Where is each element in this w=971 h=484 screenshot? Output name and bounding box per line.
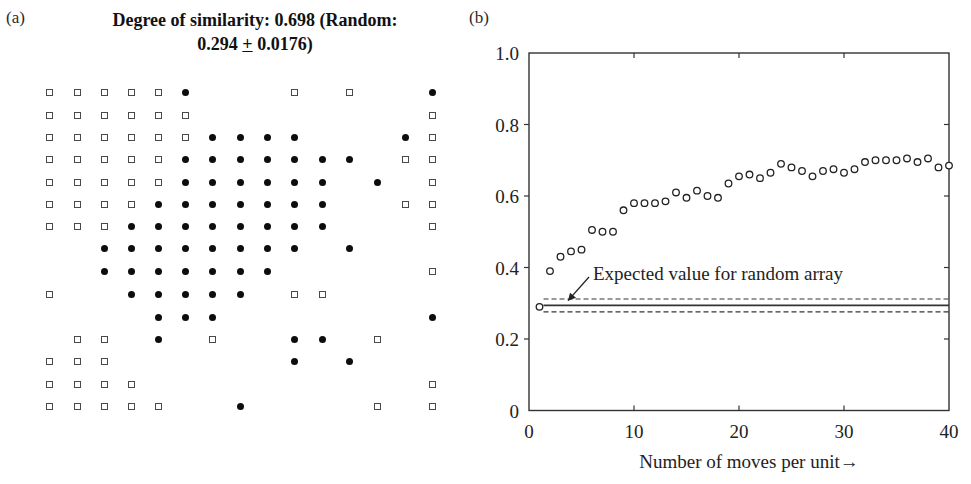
open-square-unit <box>101 201 108 208</box>
open-square-unit <box>429 268 436 275</box>
filled-dot-unit <box>209 179 216 186</box>
filled-dot-unit <box>237 156 244 163</box>
data-points <box>536 155 952 310</box>
open-square-unit <box>155 179 162 186</box>
open-square-unit <box>319 291 326 298</box>
open-square-unit <box>155 89 162 96</box>
filled-dot-unit <box>264 201 271 208</box>
open-square-unit <box>101 336 108 343</box>
filled-dot-unit <box>319 223 326 230</box>
filled-dot-unit <box>237 201 244 208</box>
open-square-unit <box>155 156 162 163</box>
data-point <box>662 198 669 205</box>
filled-dot-unit <box>237 245 244 252</box>
filled-dot-unit <box>346 156 353 163</box>
open-square-unit <box>74 134 81 141</box>
filled-dot-unit <box>182 291 189 298</box>
y-tick-label: 0 <box>510 401 520 422</box>
filled-dot-unit <box>209 291 216 298</box>
open-square-unit <box>46 201 53 208</box>
reference-lines <box>544 299 950 312</box>
open-square-unit <box>101 156 108 163</box>
open-square-unit <box>429 201 436 208</box>
filled-dot-unit <box>155 336 162 343</box>
filled-dot-unit <box>291 245 298 252</box>
filled-dot-unit <box>237 134 244 141</box>
data-point <box>599 228 606 235</box>
data-point <box>935 164 942 171</box>
filled-dot-unit <box>429 89 436 96</box>
open-square-unit <box>101 112 108 119</box>
filled-dot-unit <box>209 245 216 252</box>
open-square-unit <box>155 403 162 410</box>
x-tick-label: 10 <box>625 421 644 442</box>
filled-dot-unit <box>319 179 326 186</box>
open-square-unit <box>46 223 53 230</box>
chart-axes: 01020304000.20.40.60.81.0Number of moves… <box>495 43 958 472</box>
filled-dot-unit <box>237 291 244 298</box>
open-square-unit <box>128 381 135 388</box>
data-point <box>589 227 596 234</box>
filled-dot-unit <box>291 336 298 343</box>
filled-dot-unit <box>291 134 298 141</box>
filled-dot-unit <box>291 179 298 186</box>
open-square-unit <box>128 179 135 186</box>
chart-canvas: 01020304000.20.40.60.81.0Number of moves… <box>460 0 971 484</box>
open-square-unit <box>429 179 436 186</box>
filled-dot-unit <box>128 268 135 275</box>
filled-dot-unit <box>264 134 271 141</box>
open-square-unit <box>46 291 53 298</box>
data-point <box>725 180 732 187</box>
filled-dot-unit <box>101 245 108 252</box>
open-square-unit <box>182 134 189 141</box>
x-axis-label: Number of moves per unit→ <box>639 451 859 472</box>
data-point <box>652 200 659 207</box>
data-point <box>841 169 848 176</box>
data-point <box>830 166 837 173</box>
data-point <box>620 207 627 214</box>
open-square-unit <box>74 89 81 96</box>
data-point <box>757 175 764 182</box>
open-square-unit <box>46 358 53 365</box>
filled-dot-unit <box>128 245 135 252</box>
filled-dot-unit <box>237 223 244 230</box>
open-square-unit <box>74 201 81 208</box>
data-point <box>704 193 711 200</box>
data-point <box>799 168 806 175</box>
open-square-unit <box>128 156 135 163</box>
open-square-unit <box>46 403 53 410</box>
filled-dot-unit <box>209 314 216 321</box>
filled-dot-unit <box>182 179 189 186</box>
open-square-unit <box>374 403 381 410</box>
filled-dot-unit <box>209 134 216 141</box>
data-point <box>883 157 890 164</box>
open-square-unit <box>46 89 53 96</box>
open-square-unit <box>101 89 108 96</box>
data-point <box>715 194 722 201</box>
open-square-unit <box>155 134 162 141</box>
open-square-unit <box>74 112 81 119</box>
filled-dot-unit <box>155 268 162 275</box>
open-square-unit <box>46 381 53 388</box>
filled-dot-unit <box>429 314 436 321</box>
data-point <box>536 304 543 311</box>
open-square-unit <box>402 156 409 163</box>
data-point <box>872 157 879 164</box>
data-point <box>673 189 680 196</box>
open-square-unit <box>101 381 108 388</box>
filled-dot-unit <box>291 156 298 163</box>
filled-dot-unit <box>182 89 189 96</box>
filled-dot-unit <box>346 245 353 252</box>
open-square-unit <box>46 134 53 141</box>
filled-dot-unit <box>319 156 326 163</box>
filled-dot-unit <box>291 358 298 365</box>
filled-dot-unit <box>101 268 108 275</box>
data-point <box>925 155 932 162</box>
open-square-unit <box>74 336 81 343</box>
open-square-unit <box>74 358 81 365</box>
open-square-unit <box>46 112 53 119</box>
open-square-unit <box>402 201 409 208</box>
filled-dot-unit <box>128 291 135 298</box>
open-square-unit <box>128 403 135 410</box>
open-square-unit <box>74 381 81 388</box>
